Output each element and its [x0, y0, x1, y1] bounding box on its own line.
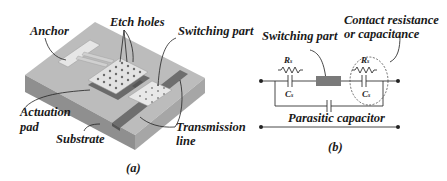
resistor-right	[352, 67, 377, 73]
label-c-right: Cs	[362, 90, 370, 99]
label-c-left: Cs	[285, 90, 293, 99]
label-parasitic: Parasitic capacitor	[288, 112, 385, 125]
label-switching-part-b: Switching part	[262, 30, 337, 43]
label-contact-1: Contact resistance	[344, 14, 439, 27]
resistor-left	[278, 67, 303, 73]
label-contact-2: or capacitance	[344, 28, 419, 41]
label-r-right: Rs	[361, 56, 369, 65]
switching-block	[316, 76, 341, 86]
caption-b: (b)	[328, 141, 343, 154]
label-r-left: Rs	[284, 56, 292, 65]
